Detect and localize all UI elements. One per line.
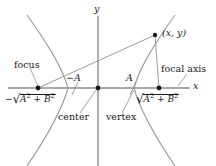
left-radical-surd-icon: √ <box>13 91 20 106</box>
leader-focus <box>30 68 38 86</box>
left-radical-expression: −√A2 + B2 <box>5 92 56 105</box>
right-radical-body: A2 + B2 <box>143 94 179 104</box>
focal-axis-label: focal axis <box>161 64 206 74</box>
ray-left-focus-to-point <box>38 35 155 88</box>
center-label: center <box>58 112 89 122</box>
left-radical-sign: − <box>5 94 13 104</box>
point-coordinates-label: (x, y) <box>162 28 186 38</box>
vertex-label: vertex <box>106 112 136 122</box>
hyperbola-figure: y x focus center vertex focal axis (x, y… <box>0 0 216 166</box>
right-radical-term-b: B <box>167 94 174 104</box>
leader-focal-axis <box>178 74 187 86</box>
left-radical-plus: + <box>31 94 44 104</box>
right-radical-exp-b: 2 <box>174 92 178 100</box>
y-axis-label: y <box>94 4 99 14</box>
focus-label: focus <box>14 60 40 70</box>
hyperbola-curves <box>27 15 175 166</box>
leader-center <box>80 90 96 113</box>
left-radical-exp-b: 2 <box>51 92 55 100</box>
pos-a-label: A <box>126 73 133 83</box>
left-radical-term-b: B <box>44 94 51 104</box>
x-axis-label: x <box>193 81 198 91</box>
figure-canvas <box>0 0 216 166</box>
neg-a-label: −A <box>66 73 81 83</box>
right-radical-plus: + <box>154 94 167 104</box>
left-branch-curve <box>27 15 68 166</box>
center-point <box>96 86 101 91</box>
right-radical-expression: √A2 + B2 <box>136 92 179 105</box>
leader-vertex <box>122 90 134 113</box>
hyperbola-point <box>153 33 157 37</box>
right-focus-value-label: √A2 + B2 <box>136 92 179 105</box>
axes-group <box>8 16 190 166</box>
ray-right-focus-to-point <box>155 35 159 88</box>
left-radical-body: A2 + B2 <box>20 94 56 104</box>
left-focus-point <box>36 86 41 91</box>
right-focus-point <box>157 86 162 91</box>
left-focus-value-label: −√A2 + B2 <box>5 92 56 105</box>
leader-lines-group <box>30 68 187 113</box>
